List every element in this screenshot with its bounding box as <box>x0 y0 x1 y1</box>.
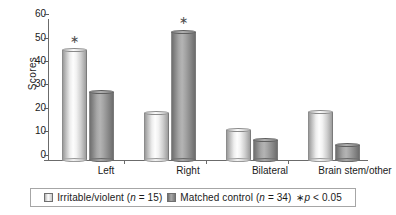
bar-bilateral-irritable-violent[interactable] <box>226 130 251 160</box>
bar-top-cap <box>62 48 87 52</box>
bar-top-cap <box>226 128 251 132</box>
bar-top-cap <box>308 110 333 114</box>
bar-top-cap <box>89 90 114 94</box>
y-axis-tick-labels: 60 50 40 30 20 10 0 <box>20 14 46 160</box>
legend-label-main: Matched control ( <box>180 192 259 203</box>
x-label-right: Right <box>148 165 228 176</box>
bar-bottom-cap <box>144 158 169 162</box>
bar-bottom-cap <box>308 158 333 162</box>
y-tick-20: 20 <box>20 103 46 113</box>
bar-bottom-cap <box>62 158 87 162</box>
bar-top-cap <box>335 143 360 147</box>
x-label-bilateral: Bilateral <box>230 165 310 176</box>
y-tick-50: 50 <box>20 33 46 43</box>
chart-legend: Irritable/violent (n = 15) Matched contr… <box>30 188 356 207</box>
x-axis-separator-1 <box>124 160 125 164</box>
bar-group-right: ∗ <box>144 20 212 160</box>
tick-mark-60 <box>44 14 49 15</box>
bar-brainstem-irritable-violent[interactable] <box>308 112 333 160</box>
legend-entry-irritable-violent[interactable]: Irritable/violent (n = 15) <box>44 192 162 203</box>
bar-bottom-cap <box>171 158 196 162</box>
legend-entry-matched-control[interactable]: Matched control (n = 34) <box>167 192 291 203</box>
y-tick-40: 40 <box>20 56 46 66</box>
bar-left-matched-control[interactable] <box>89 92 114 160</box>
bar-left-irritable-violent[interactable] <box>62 50 87 160</box>
bar-top-cap <box>253 138 278 142</box>
bar-brainstem-matched-control[interactable] <box>335 145 360 160</box>
x-axis-separator-3 <box>288 160 289 164</box>
bar-top-cap <box>171 30 196 34</box>
legend-label-tail: = 15) <box>136 192 162 203</box>
x-axis-labels: Left Right Bilateral Brain stem/other <box>44 165 368 179</box>
legend-label-tail: = 34) <box>265 192 291 203</box>
bar-bottom-cap <box>89 158 114 162</box>
significance-marker-right-matched: ∗ <box>171 16 196 24</box>
significance-marker-left-irritable: ∗ <box>62 35 87 43</box>
x-axis-separator-2 <box>206 160 207 164</box>
legend-significance-note: ∗p < 0.05 <box>296 192 341 203</box>
x-label-left: Left <box>66 165 146 176</box>
legend-label-irritable-violent: Irritable/violent (n = 15) <box>57 192 162 203</box>
legend-swatch-dark-icon <box>167 193 176 202</box>
y-tick-0: 0 <box>20 150 46 160</box>
legend-swatch-light-icon <box>44 193 53 202</box>
significance-threshold: < 0.05 <box>310 192 342 203</box>
legend-label-main: Irritable/violent ( <box>57 192 130 203</box>
bar-group-bilateral <box>226 20 294 160</box>
y-tick-60: 60 <box>20 9 46 19</box>
x-label-brain-stem-other: Brain stem/other <box>302 165 396 176</box>
y-tick-30: 30 <box>20 79 46 89</box>
y-tick-10: 10 <box>20 126 46 136</box>
bar-bottom-cap <box>335 158 360 162</box>
bar-bottom-cap <box>253 158 278 162</box>
plot-area: ∗ ∗ <box>49 20 368 160</box>
bar-top-cap <box>144 111 169 115</box>
bar-group-left: ∗ <box>62 20 130 160</box>
bar-bilateral-matched-control[interactable] <box>253 140 278 160</box>
bar-group-brain-stem-other <box>308 20 376 160</box>
bar-right-irritable-violent[interactable] <box>144 113 169 160</box>
significance-asterisk: ∗ <box>296 192 304 203</box>
legend-label-matched-control: Matched control (n = 34) <box>180 192 291 203</box>
bar-right-matched-control[interactable] <box>171 32 196 160</box>
bar-bottom-cap <box>226 158 251 162</box>
